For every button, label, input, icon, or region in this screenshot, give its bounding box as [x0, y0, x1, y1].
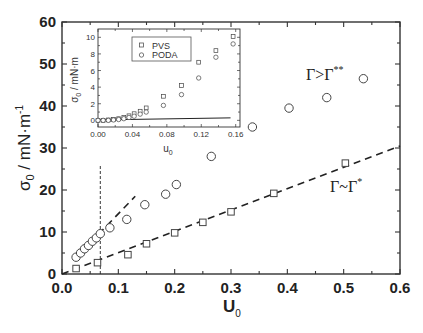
- x-tick-label: 0.3: [221, 279, 242, 296]
- data-point-square: [73, 265, 80, 272]
- data-point-circle: [132, 114, 136, 118]
- data-point-circle: [248, 123, 256, 131]
- data-point-square: [180, 84, 184, 88]
- data-point-circle: [323, 93, 331, 101]
- data-point-circle: [106, 118, 110, 122]
- y-tick-label: 30: [39, 139, 56, 156]
- data-point-circle: [179, 92, 183, 96]
- fit-circles-line: [99, 196, 136, 234]
- data-point-circle: [96, 229, 104, 237]
- x-tick-label: 0.2: [164, 279, 185, 296]
- data-point-circle: [172, 180, 180, 188]
- x-tick-label: 0.08: [159, 130, 175, 139]
- y-tick-label: 2: [91, 100, 96, 109]
- annotation-gamma-high: Γ>Γ**: [306, 64, 344, 83]
- y-tick-label: 20: [39, 181, 56, 198]
- x-tick-label: 0.04: [125, 130, 141, 139]
- data-point-circle: [231, 42, 235, 46]
- data-point-square: [94, 259, 101, 266]
- main-x-axis-title: U0: [223, 297, 241, 319]
- annotation-gamma-low: Γ~Γ*: [330, 176, 362, 195]
- data-point-circle: [196, 76, 200, 80]
- inset-legend: PVS PODA: [132, 37, 191, 61]
- data-point-square: [125, 251, 132, 258]
- x-tick-label: 0.5: [333, 279, 354, 296]
- data-point-circle: [144, 110, 148, 114]
- data-point-square: [200, 219, 207, 226]
- data-point-square: [197, 60, 201, 64]
- data-point-square: [162, 94, 166, 98]
- y-tick-label: 6: [91, 67, 96, 76]
- main-y-axis-title: σ0 / mN·m-1: [14, 105, 36, 191]
- y-tick-label: 8: [91, 50, 96, 59]
- data-point-circle: [359, 75, 367, 83]
- y-tick-label: 60: [39, 13, 56, 30]
- data-point-square: [342, 160, 349, 167]
- x-tick-label: 0.00: [90, 130, 106, 139]
- data-point-circle: [123, 215, 131, 223]
- x-tick-label: 0.6: [390, 279, 411, 296]
- data-point-square: [214, 49, 218, 53]
- legend-label-poda: PODA: [152, 50, 178, 60]
- data-point-circle: [138, 112, 142, 116]
- inset-x-axis-title: u0: [163, 143, 173, 156]
- data-point-circle: [106, 224, 114, 232]
- inset-y-axis-title: σ0 / mN·m: [69, 57, 82, 103]
- x-tick-label: 0.12: [193, 130, 209, 139]
- data-point-square: [144, 106, 148, 110]
- data-point-circle: [127, 115, 131, 119]
- y-tick-label: 40: [39, 97, 56, 114]
- data-point-square: [143, 241, 150, 248]
- data-point-circle: [111, 118, 115, 122]
- x-tick-label: 0.4: [277, 279, 299, 296]
- data-point-square: [271, 190, 278, 197]
- data-point-circle: [207, 152, 215, 160]
- y-tick-label: 50: [39, 55, 56, 72]
- data-point-circle: [101, 118, 105, 122]
- data-point-circle: [116, 117, 120, 121]
- data-point-circle: [161, 190, 169, 198]
- data-point-circle: [161, 103, 165, 107]
- data-point-square: [171, 230, 178, 237]
- data-point-square: [231, 35, 235, 39]
- y-tick-label: 10: [86, 33, 95, 42]
- chart-figure: 0.00.10.20.30.40.50.60102030405060 0.000…: [0, 0, 423, 333]
- y-tick-label: 4: [91, 83, 96, 92]
- data-point-circle: [285, 104, 293, 112]
- x-tick-label: 0.16: [228, 130, 244, 139]
- x-tick-label: 0.1: [108, 279, 129, 296]
- data-point-circle: [214, 55, 218, 59]
- y-tick-label: 10: [39, 223, 56, 240]
- legend-label-pvs: PVS: [152, 41, 170, 51]
- y-tick-label: 0: [91, 116, 96, 125]
- y-tick-label: 0: [48, 265, 56, 282]
- data-point-circle: [141, 201, 149, 209]
- data-point-circle: [122, 116, 126, 120]
- data-point-circle: [96, 118, 100, 122]
- data-point-square: [228, 209, 235, 216]
